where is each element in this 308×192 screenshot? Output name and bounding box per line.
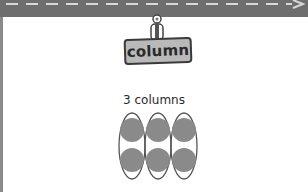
caption: 3 columns [0,93,308,107]
column-array-illustration [118,112,198,182]
vocabulary-sign: column [124,37,193,65]
sign-label: column [126,41,189,61]
